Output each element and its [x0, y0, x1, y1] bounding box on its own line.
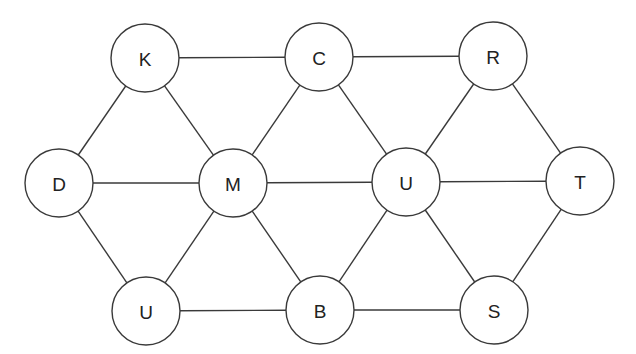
graph-diagram: KCRDMUTUBS [0, 0, 636, 354]
edge-k-d [78, 86, 125, 155]
edge-u-s [425, 210, 474, 282]
node-d: D [25, 149, 93, 217]
node-b: B [286, 276, 354, 344]
graph-canvas: KCRDMUTUBS [0, 0, 636, 354]
edge-c-m [252, 85, 300, 155]
node-label: U [139, 302, 153, 323]
edge-k-c [179, 57, 285, 58]
edge-u-b [339, 210, 387, 282]
node-label: R [486, 47, 500, 68]
edge-t-s [513, 209, 561, 281]
node-label: S [488, 301, 501, 322]
node-label: U [399, 173, 413, 194]
edge-d-u2 [78, 211, 127, 283]
node-c: C [285, 23, 353, 91]
node-u2: U [112, 277, 180, 345]
edges-layer [78, 56, 561, 311]
node-label: T [574, 172, 586, 193]
node-label: K [139, 49, 152, 70]
node-label: C [312, 48, 326, 69]
edge-u-t [440, 181, 546, 182]
node-label: B [314, 301, 327, 322]
node-t: T [546, 147, 614, 215]
node-u: U [372, 148, 440, 216]
node-s: S [460, 276, 528, 344]
edge-m-u2 [165, 211, 214, 283]
edge-m-b [252, 211, 301, 282]
node-r: R [459, 22, 527, 90]
edge-c-u [338, 85, 386, 154]
edge-u2-b [180, 310, 286, 311]
node-m: M [199, 149, 267, 217]
edge-r-u [425, 84, 473, 154]
edge-k-m [165, 86, 214, 155]
edge-c-r [353, 56, 459, 57]
edge-r-t [512, 84, 560, 153]
node-k: K [111, 24, 179, 92]
node-label: M [225, 174, 241, 195]
node-label: D [52, 174, 66, 195]
edge-m-u [267, 182, 372, 183]
